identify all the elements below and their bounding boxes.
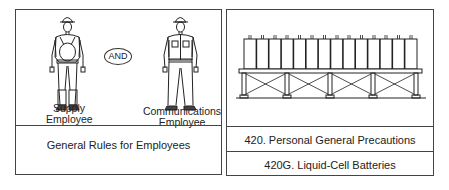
personal-precautions-caption: 420. Personal General Precautions	[227, 134, 433, 146]
battery-terminals	[249, 35, 412, 39]
battery-cells	[244, 39, 417, 69]
general-rules-panel: AND Supply Employee Communications Emplo…	[15, 9, 222, 175]
panel-divider	[16, 125, 221, 126]
communications-label-line2: Employee	[138, 117, 226, 128]
battery-precautions-panel: 420. Personal General Precautions 420G. …	[226, 9, 434, 176]
panel-divider-1	[227, 126, 433, 127]
battery-rack-icon	[227, 10, 435, 125]
liquid-cell-batteries-caption: 420G. Liquid-Cell Batteries	[227, 159, 433, 171]
supply-label-line2: Employee	[46, 114, 92, 125]
cross-bracing	[246, 74, 414, 94]
panel-divider-2	[227, 151, 433, 152]
rack-legs	[240, 73, 420, 98]
communications-employee-icon	[163, 18, 198, 111]
and-connector: AND	[104, 48, 132, 65]
supply-employee-icon	[50, 18, 85, 111]
supply-employee-label: Supply Employee	[46, 103, 92, 125]
general-rules-caption: General Rules for Employees	[16, 139, 221, 151]
